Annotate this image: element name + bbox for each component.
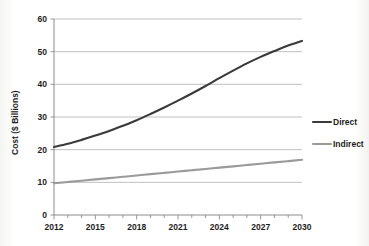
x-tick-label-2021: 2021 [169, 222, 188, 232]
series-line-indirect [54, 160, 302, 184]
y-axis-title: Cost ($ Billions) [10, 90, 20, 155]
y-tick-labels: 0102030405060 [38, 14, 48, 220]
chart-container: 0102030405060 20122015201820212024202720… [0, 0, 369, 246]
x-tick-label-2012: 2012 [45, 222, 64, 232]
x-tick-label-2024: 2024 [210, 222, 229, 232]
chart-legend: DirectIndirect [313, 117, 364, 149]
y-tick-label-0: 0 [42, 210, 47, 220]
data-series [54, 41, 302, 183]
y-axis [51, 19, 55, 215]
y-tick-label-40: 40 [38, 79, 48, 89]
x-tick-label-2018: 2018 [127, 222, 146, 232]
line-chart: 0102030405060 20122015201820212024202720… [0, 0, 369, 246]
legend-label-indirect: Indirect [333, 139, 364, 149]
x-axis [54, 215, 302, 220]
x-tick-label-2015: 2015 [86, 222, 105, 232]
y-tick-label-50: 50 [38, 47, 48, 57]
series-line-direct [54, 41, 302, 147]
y-tick-label-10: 10 [38, 177, 48, 187]
y-tick-label-20: 20 [38, 145, 48, 155]
x-tick-label-2030: 2030 [293, 222, 312, 232]
y-tick-label-30: 30 [38, 112, 48, 122]
x-tick-labels: 2012201520182021202420272030 [45, 222, 312, 232]
y-tick-label-60: 60 [38, 14, 48, 24]
legend-label-direct: Direct [333, 117, 357, 127]
x-tick-label-2027: 2027 [251, 222, 270, 232]
